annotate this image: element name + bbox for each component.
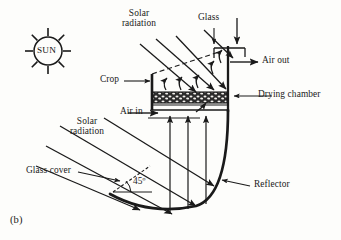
solar-dryer-diagram xyxy=(0,0,341,240)
label-solar-radiation-left: Solarradiation xyxy=(56,116,118,136)
internal-air-arrows xyxy=(164,50,222,90)
reflected-vertical-rays xyxy=(170,116,206,212)
label-solar-radiation-top: Solarradiation xyxy=(108,8,170,28)
label-glass: Glass xyxy=(198,12,219,22)
label-drying-chamber: Drying chamber xyxy=(258,89,321,99)
incoming-solar-rays-upper xyxy=(140,18,237,92)
label-air-out: Air out xyxy=(262,55,290,65)
label-air-in: Air in xyxy=(120,106,143,116)
reflector-arc xyxy=(110,110,228,209)
label-reflector: Reflector xyxy=(254,179,290,189)
sun-label: SUN xyxy=(37,45,56,55)
label-angle-45: 45º xyxy=(133,176,146,186)
label-crop: Crop xyxy=(100,74,119,84)
crop-bed xyxy=(153,92,227,103)
figure-caption: (b) xyxy=(10,214,23,225)
label-glass-cover: Glass cover xyxy=(26,165,71,175)
